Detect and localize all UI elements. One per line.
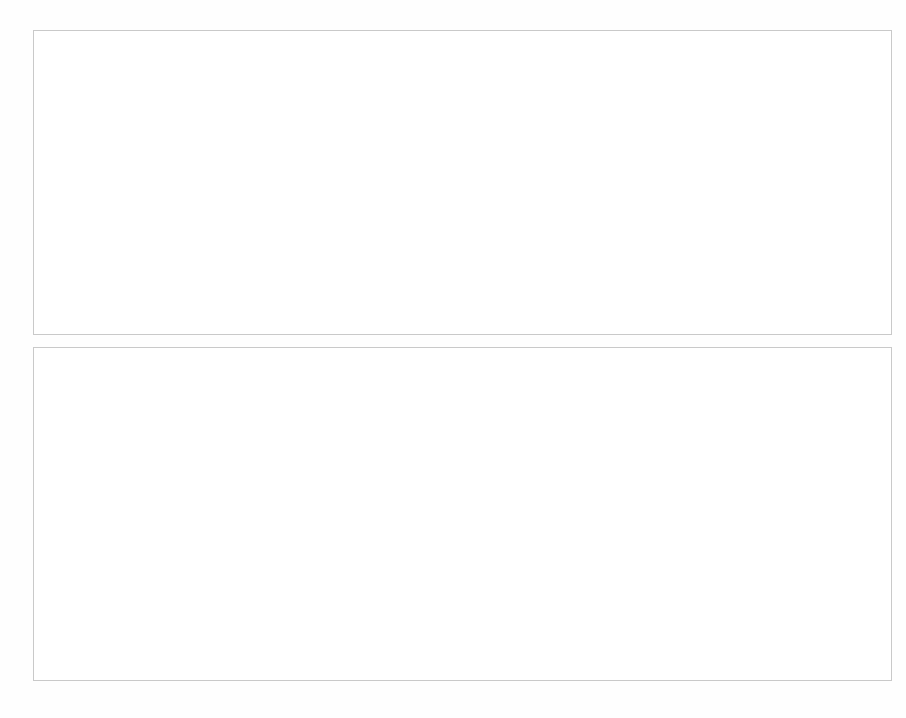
infusion-rates-plot — [34, 31, 893, 336]
glucose-levels-plot — [34, 348, 893, 682]
infusion-rates-chart-panel — [33, 30, 892, 335]
glucose-levels-chart-panel — [33, 347, 892, 681]
figure-root — [0, 0, 906, 718]
